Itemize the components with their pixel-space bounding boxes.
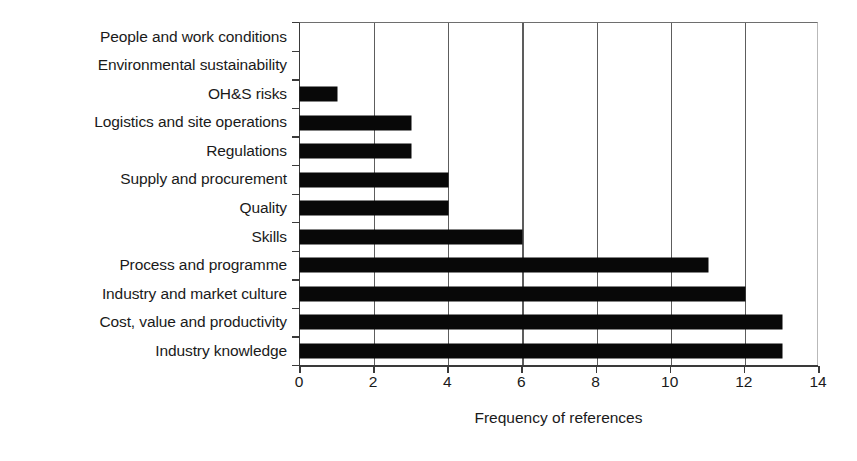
category-label: OH&S risks	[0, 79, 293, 108]
bar-row	[300, 109, 817, 138]
bar-chart-figure: People and work conditions Environmental…	[0, 0, 857, 461]
y-axis-tick	[292, 251, 299, 252]
y-axis-tick	[292, 165, 299, 166]
x-axis-tick	[744, 366, 746, 373]
category-label: Quality	[0, 193, 293, 222]
x-axis-tick-labels: 02468101214	[299, 374, 818, 396]
bar-row	[300, 23, 817, 52]
bar-row	[300, 52, 817, 81]
bar-row	[300, 337, 817, 366]
y-axis-tick	[292, 51, 299, 52]
category-axis-ticks	[292, 22, 299, 365]
y-axis-tick	[292, 108, 299, 109]
y-axis-tick	[292, 194, 299, 195]
x-axis-tick	[299, 366, 301, 373]
category-axis-labels: People and work conditions Environmental…	[0, 22, 293, 365]
bar	[300, 315, 782, 329]
x-axis-tick	[373, 366, 375, 373]
y-axis-tick	[292, 308, 299, 309]
bar-row	[300, 80, 817, 109]
category-label: People and work conditions	[0, 22, 293, 51]
y-axis-tick	[292, 279, 299, 280]
y-axis-tick	[292, 336, 299, 337]
bar-row	[300, 194, 817, 223]
bar-row	[300, 280, 817, 309]
x-axis-tick-label: 4	[443, 374, 452, 390]
bar	[300, 116, 411, 130]
y-axis-tick	[292, 79, 299, 80]
x-axis-tick	[521, 366, 523, 373]
x-axis-tick-label: 2	[369, 374, 378, 390]
category-label: Environmental sustainability	[0, 51, 293, 80]
bar-row	[300, 251, 817, 280]
x-axis-tick-label: 0	[295, 374, 304, 390]
x-axis-tick	[596, 366, 598, 373]
bar	[300, 344, 782, 358]
bar	[300, 87, 337, 101]
bar	[300, 201, 448, 215]
bar	[300, 230, 522, 244]
bar	[300, 144, 411, 158]
category-label: Logistics and site operations	[0, 108, 293, 137]
bar-row	[300, 308, 817, 337]
y-axis-tick	[292, 222, 299, 223]
bar-series	[300, 23, 817, 365]
bar-row	[300, 223, 817, 252]
y-axis-tick	[292, 22, 299, 23]
plot-area	[299, 22, 818, 365]
category-label: Cost, value and productivity	[0, 308, 293, 337]
category-label: Supply and procurement	[0, 165, 293, 194]
category-label: Process and programme	[0, 251, 293, 280]
y-axis-tick	[292, 365, 299, 366]
bar	[300, 258, 708, 272]
x-axis-ticks	[299, 366, 818, 373]
x-axis-tick	[818, 366, 820, 373]
x-axis-title: Frequency of references	[299, 410, 818, 426]
category-label: Industry and market culture	[0, 279, 293, 308]
x-axis-tick-label: 6	[517, 374, 526, 390]
bar	[300, 173, 448, 187]
category-label: Regulations	[0, 136, 293, 165]
x-axis-tick-label: 14	[809, 374, 826, 390]
category-label: Skills	[0, 222, 293, 251]
x-axis-tick	[447, 366, 449, 373]
x-axis-tick-label: 10	[661, 374, 678, 390]
bar-row	[300, 166, 817, 195]
y-axis-tick	[292, 136, 299, 137]
x-axis-tick	[670, 366, 672, 373]
category-label: Industry knowledge	[0, 336, 293, 365]
bar	[300, 287, 745, 301]
bar-row	[300, 137, 817, 166]
x-axis-tick-label: 12	[735, 374, 752, 390]
x-axis-tick-label: 8	[591, 374, 600, 390]
